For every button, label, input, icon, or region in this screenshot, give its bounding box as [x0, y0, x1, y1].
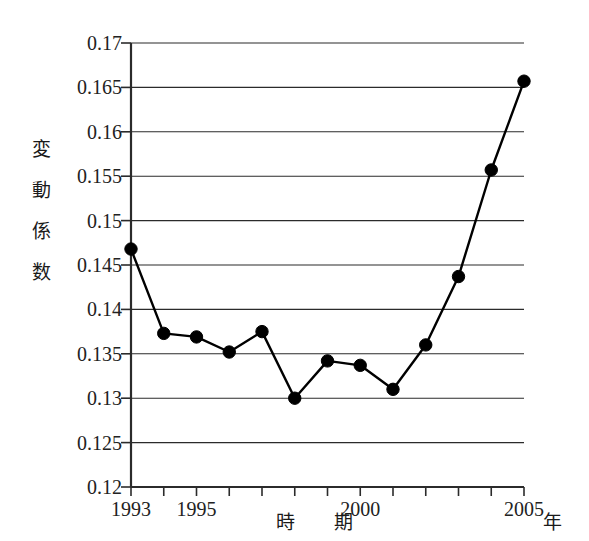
y-axis-tick-marks [121, 43, 131, 487]
chart-container: 変 動 係 数 0.120.1250.130.1350.140.1450.150… [0, 0, 589, 541]
data-point-1999 [321, 355, 333, 367]
data-point-1996 [223, 346, 235, 358]
data-point-1997 [256, 325, 268, 337]
line-chart-plot [0, 0, 589, 541]
data-point-2005 [518, 75, 530, 87]
gridlines [131, 43, 524, 487]
data-point-1995 [190, 331, 202, 343]
data-point-2000 [354, 359, 366, 371]
series-line-henndo-keisuu [131, 81, 524, 398]
data-point-1998 [289, 392, 301, 404]
data-point-2002 [420, 339, 432, 351]
data-point-2001 [387, 383, 399, 395]
x-axis-tick-marks [131, 487, 524, 496]
data-point-1994 [158, 327, 170, 339]
data-point-1993 [125, 243, 137, 255]
data-point-2004 [485, 164, 497, 176]
data-point-2003 [452, 270, 464, 282]
